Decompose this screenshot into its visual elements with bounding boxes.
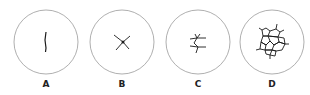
panel-label-a: A <box>36 79 56 89</box>
panel-label-d: D <box>262 79 282 89</box>
panel-c <box>166 10 230 74</box>
panel-b <box>90 10 154 74</box>
panel-a <box>14 10 78 74</box>
panel-label-b: B <box>112 79 132 89</box>
panel-label-c: C <box>188 79 208 89</box>
panel-d <box>240 10 304 74</box>
